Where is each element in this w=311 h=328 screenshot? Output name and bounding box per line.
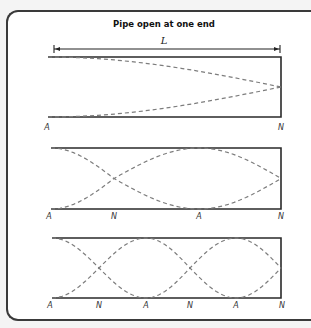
displacement-curve-lower	[52, 238, 281, 298]
node-label: N	[111, 212, 117, 221]
arrowhead-left-icon	[55, 47, 60, 51]
arrowhead-right-icon	[274, 47, 279, 51]
antinode-label: A	[45, 212, 51, 221]
antinode-label: A	[142, 301, 148, 310]
length-dimension-arrow	[54, 45, 280, 53]
displacement-curve-upper	[51, 148, 281, 209]
length-label: L	[160, 35, 168, 46]
displacement-curve-upper	[52, 238, 281, 298]
antinode-label: A	[43, 123, 49, 132]
pipe-fundamental: AN	[43, 57, 284, 132]
node-label: N	[278, 123, 284, 132]
pipe-harmonics-diagram: Pipe open at one end L ANANANANANAN	[0, 0, 311, 328]
pipe-third-harmonic: ANAN	[45, 148, 284, 221]
displacement-curve-lower	[51, 148, 281, 209]
pipe-fifth-harmonic: ANANAN	[46, 238, 285, 310]
node-label: N	[187, 301, 193, 310]
pipe-walls	[48, 57, 281, 117]
pipes-group: ANANANANANAN	[43, 57, 285, 310]
node-label: N	[279, 301, 285, 310]
antinode-label: A	[195, 212, 201, 221]
pipe-walls	[52, 238, 281, 298]
diagram-title: Pipe open at one end	[113, 19, 215, 29]
node-label: N	[96, 301, 102, 310]
antinode-label: A	[232, 301, 238, 310]
node-label: N	[278, 212, 284, 221]
displacement-curve-lower	[48, 87, 281, 117]
displacement-curve-upper	[48, 57, 281, 87]
pipe-walls	[51, 148, 281, 209]
antinode-label: A	[46, 301, 52, 310]
